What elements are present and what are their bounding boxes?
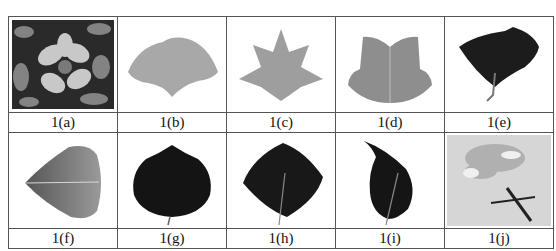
caption-1c: 1(c) [227,113,336,133]
poplar-leaf-image [9,133,117,228]
image-cell-1h [227,133,336,229]
caption-1e: 1(e) [445,113,554,133]
label-row-1: 1(a) 1(b) 1(c) 1(d) 1(e) [9,113,554,133]
image-cell-1g [118,133,227,229]
dark-fan-leaf-image [445,17,553,112]
caption-1g: 1(g) [118,229,227,249]
caption-1h: 1(h) [227,229,336,249]
flower-photo-image [9,17,117,112]
image-cell-1a [9,17,118,113]
image-cell-1f [9,133,118,229]
round-dark-leaf-image [118,133,226,228]
tulip-leaf-image [336,17,444,112]
image-cell-1d [336,17,445,113]
carnation-photo-image [445,133,553,228]
image-cell-1c [227,17,336,113]
lobed-leaf-image [227,17,335,112]
pointed-dark-leaf-image [336,133,444,228]
caption-1a: 1(a) [9,113,118,133]
caption-1b: 1(b) [118,113,227,133]
ovate-dark-leaf-image [227,133,335,228]
caption-1j: 1(j) [445,229,554,249]
image-cell-1i [336,133,445,229]
caption-1i: 1(i) [336,229,445,249]
image-cell-1j [445,133,554,229]
caption-1f: 1(f) [9,229,118,249]
ginkgo-leaf-image [118,17,226,112]
caption-1d: 1(d) [336,113,445,133]
image-row-2 [9,133,554,229]
figure-grid: 1(a) 1(b) 1(c) 1(d) 1(e) [8,16,554,249]
image-cell-1b [118,17,227,113]
image-cell-1e [445,17,554,113]
image-row-1 [9,17,554,113]
label-row-2: 1(f) 1(g) 1(h) 1(i) 1(j) [9,229,554,249]
